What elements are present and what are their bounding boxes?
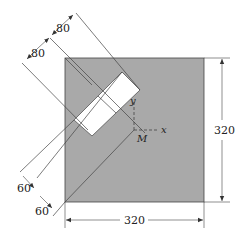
y-axis-label: y (129, 95, 136, 106)
lower-strip-line-3 (53, 202, 65, 216)
label-60-b: 60 (35, 205, 49, 218)
width-label: 320 (124, 214, 145, 227)
label-60-a: 60 (17, 182, 31, 195)
height-label: 320 (214, 124, 235, 137)
diagram-canvas: 80 80 60 60 y x M 320 320 (0, 0, 246, 240)
x-axis-label: x (161, 124, 167, 135)
label-80-b: 80 (56, 22, 70, 35)
point-m-label: M (136, 133, 148, 144)
label-80-a: 80 (31, 47, 45, 60)
